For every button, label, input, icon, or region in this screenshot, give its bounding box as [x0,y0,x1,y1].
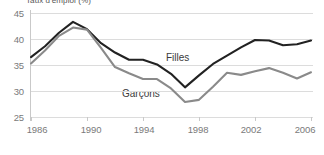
plot-area [0,0,324,155]
series-line-garons [31,28,311,102]
series-line-filles [31,22,311,88]
employment-rate-line-chart: Taux d'emploi (%) 45 40 35 30 25 1986 19… [0,0,324,155]
series-lines [31,22,311,102]
gridlines [31,14,313,118]
